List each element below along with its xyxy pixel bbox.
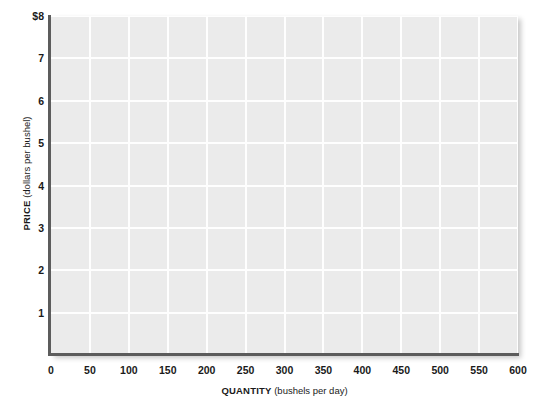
gridline-horizontal (51, 185, 518, 187)
y-tick-label: 7 (0, 53, 44, 64)
x-axis-title-rest: (bushels per day) (272, 385, 348, 396)
y-axis-line (48, 15, 51, 356)
chart-figure: 1234567$8 050100150200250300350400450500… (0, 0, 549, 411)
plot-area (51, 16, 518, 355)
gridline-horizontal (51, 16, 518, 17)
gridline-horizontal (51, 312, 518, 314)
gridline-horizontal (51, 269, 518, 271)
x-axis-line (48, 353, 519, 356)
x-tick-label: 600 (493, 364, 543, 376)
gridline-horizontal (51, 142, 518, 144)
y-tick-label: 1 (0, 308, 44, 319)
x-axis-title-bold: QUANTITY (221, 385, 271, 396)
gridline-horizontal (51, 100, 518, 102)
y-tick-label: $8 (0, 11, 44, 22)
x-axis-title: QUANTITY (bushels per day) (51, 385, 518, 396)
gridline-horizontal (51, 227, 518, 229)
y-axis-title-rest: (dollars per bushel) (21, 117, 32, 201)
y-axis-title: PRICE (dollars per bushel) (21, 74, 32, 274)
y-axis-title-bold: PRICE (21, 200, 32, 230)
gridline-horizontal (51, 57, 518, 59)
